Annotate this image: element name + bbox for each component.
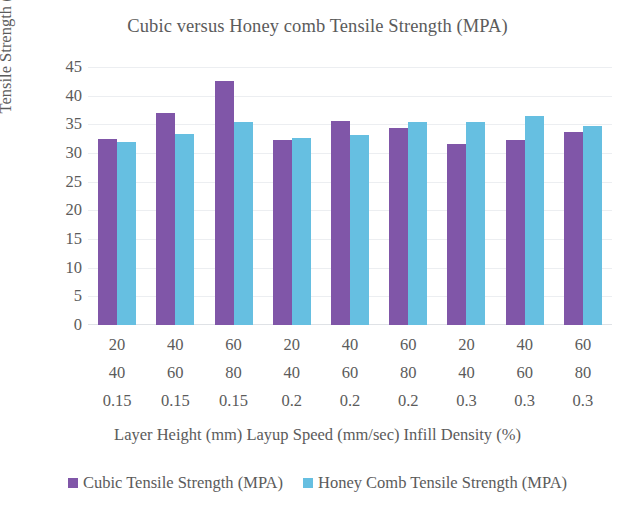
x-axis-tick-label: 40: [88, 365, 146, 382]
y-axis-tick-10: 10: [48, 259, 82, 276]
x-axis-tick-label-rows: 2040602040602040604060804060804060800.15…: [88, 333, 612, 417]
bar-honeycomb[interactable]: [350, 135, 369, 325]
bar-cubic[interactable]: [273, 140, 292, 325]
bar-honeycomb[interactable]: [466, 122, 485, 325]
y-axis-tick-15: 15: [48, 231, 82, 248]
x-axis-tick-label: 40: [437, 365, 495, 382]
bar-honeycomb[interactable]: [234, 122, 253, 325]
y-axis-title: Tensile Strength (MPA): [0, 0, 16, 150]
x-axis-tick-label: 0.2: [321, 393, 379, 410]
x-axis-tick-label: 40: [146, 337, 204, 354]
y-axis-tick-40: 40: [48, 87, 82, 104]
y-axis-tick-25: 25: [48, 173, 82, 190]
bar-group: [564, 67, 602, 325]
bar-cubic[interactable]: [331, 121, 350, 325]
x-axis-tick-label: 20: [88, 337, 146, 354]
x-axis-tick-label: 60: [379, 337, 437, 354]
x-axis-tick-label: 0.15: [88, 393, 146, 410]
bar-honeycomb[interactable]: [117, 142, 136, 325]
plot-area: [88, 67, 612, 325]
bar-cubic[interactable]: [506, 140, 525, 325]
infill-density-row: 0.150.150.150.20.20.20.30.30.3: [88, 389, 612, 417]
y-axis-tick-5: 5: [48, 288, 82, 305]
bar-group: [98, 67, 136, 325]
bar-group: [506, 67, 544, 325]
x-axis-tick-label: 0.15: [205, 393, 263, 410]
bar-cubic[interactable]: [215, 81, 234, 325]
x-axis-tick-label: 80: [379, 365, 437, 382]
legend-swatch-icon: [303, 478, 313, 488]
x-axis-tick-label: 0.3: [554, 393, 612, 410]
x-axis-tick-label: 0.2: [379, 393, 437, 410]
legend-item[interactable]: Cubic Tensile Strength (MPA): [68, 475, 283, 492]
bar-honeycomb[interactable]: [408, 122, 427, 325]
x-axis-tick-label: 0.15: [146, 393, 204, 410]
bar-cubic[interactable]: [564, 132, 583, 325]
legend-label: Cubic Tensile Strength (MPA): [83, 475, 283, 492]
bar-group: [215, 67, 253, 325]
legend-swatch-icon: [68, 478, 78, 488]
x-axis-tick-label: 60: [205, 337, 263, 354]
x-axis-tick-label: 60: [496, 365, 554, 382]
x-axis-tick-label: 20: [437, 337, 495, 354]
legend-label: Honey Comb Tensile Strength (MPA): [318, 475, 567, 492]
x-axis-tick-label: 0.2: [263, 393, 321, 410]
x-axis-tick-label: 60: [146, 365, 204, 382]
x-axis-tick-label: 0.3: [437, 393, 495, 410]
bar-honeycomb[interactable]: [583, 126, 602, 325]
x-axis-tick-label: 40: [263, 365, 321, 382]
bar-group: [331, 67, 369, 325]
x-axis-tick-label: 60: [321, 365, 379, 382]
y-axis-tick-0: 0: [48, 317, 82, 334]
legend-item[interactable]: Honey Comb Tensile Strength (MPA): [303, 475, 567, 492]
x-axis-tick-label: 40: [321, 337, 379, 354]
bar-group: [156, 67, 194, 325]
chart-legend: Cubic Tensile Strength (MPA)Honey Comb T…: [0, 475, 635, 492]
tensile-strength-bar-chart: Cubic versus Honey comb Tensile Strength…: [0, 0, 635, 511]
x-axis-tick-label: 80: [554, 365, 612, 382]
layup-speed-row: 406080406080406080: [88, 361, 612, 389]
bar-honeycomb[interactable]: [525, 116, 544, 325]
y-axis-tick-35: 35: [48, 116, 82, 133]
bar-group: [447, 67, 485, 325]
bar-cubic[interactable]: [447, 144, 466, 325]
bar-cubic[interactable]: [98, 139, 117, 325]
bar-honeycomb[interactable]: [292, 138, 311, 325]
y-axis-tick-45: 45: [48, 59, 82, 76]
bar-cubic[interactable]: [389, 128, 408, 325]
bar-group: [389, 67, 427, 325]
x-axis-tick-label: 0.3: [496, 393, 554, 410]
layer-height-row: 204060204060204060: [88, 333, 612, 361]
x-axis-title: Layer Height (mm) Layup Speed (mm/sec) I…: [0, 425, 635, 445]
bar-group: [273, 67, 311, 325]
y-axis-tick-30: 30: [48, 145, 82, 162]
bars-layer: [88, 67, 612, 325]
x-axis-tick-label: 20: [263, 337, 321, 354]
y-axis-tick-20: 20: [48, 202, 82, 219]
x-axis-tick-label: 40: [496, 337, 554, 354]
x-axis-tick-label: 80: [205, 365, 263, 382]
bar-honeycomb[interactable]: [175, 134, 194, 325]
x-axis-tick-label: 60: [554, 337, 612, 354]
chart-title: Cubic versus Honey comb Tensile Strength…: [0, 16, 635, 37]
bar-cubic[interactable]: [156, 113, 175, 325]
